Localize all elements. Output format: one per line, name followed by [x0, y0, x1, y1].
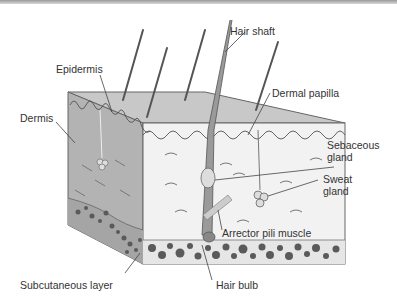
sebaceous-gland-shape — [201, 168, 215, 188]
label-sweat-line1: Sweat — [323, 173, 352, 185]
label-sebaceous-line2: gland — [327, 151, 380, 163]
label-epidermis: Epidermis — [56, 63, 103, 75]
label-dermal-papilla: Dermal papilla — [272, 87, 339, 99]
label-sebaceous-gland: Sebaceous gland — [327, 139, 380, 163]
hair-bulb-shape — [203, 232, 215, 242]
label-subcutaneous-layer: Subcutaneous layer — [20, 279, 113, 291]
label-dermis: Dermis — [20, 112, 53, 124]
label-sweat-line2: gland — [323, 185, 352, 197]
label-sweat-gland: Sweat gland — [323, 173, 352, 197]
label-hair-shaft: Hair shaft — [230, 25, 275, 37]
label-arrector-pili-muscle: Arrector pili muscle — [222, 227, 311, 239]
label-hair-bulb: Hair bulb — [216, 279, 258, 291]
label-sebaceous-line1: Sebaceous — [327, 139, 380, 151]
